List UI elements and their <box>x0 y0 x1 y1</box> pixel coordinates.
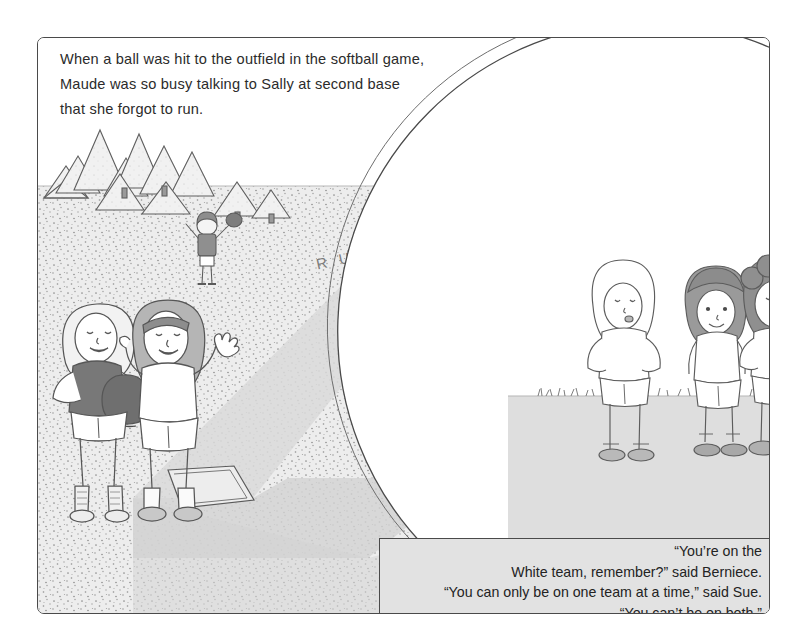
illustration-frame: R U N ! <box>37 37 770 614</box>
illustration-page: R U N ! <box>0 0 795 644</box>
scene-artwork: R U N ! <box>38 38 770 614</box>
dialogue-line-3: “You can only be on one team at a time,”… <box>444 582 762 603</box>
dialogue-line-1: “You’re on the <box>444 541 762 562</box>
dialogue-line-2: White team, remember?” said Berniece. <box>444 562 762 583</box>
caption-line-2: Maude was so busy talking to Sally at se… <box>60 72 560 97</box>
caption-line-3: that she forgot to run. <box>60 97 560 122</box>
dialogue-lines: “You’re on the White team, remember?” sa… <box>444 541 762 614</box>
caption-line-1: When a ball was hit to the outfield in t… <box>60 47 560 72</box>
dialogue-box: “You’re on the White team, remember?” sa… <box>379 538 770 614</box>
dialogue-line-4: “You can’t be on both.” <box>444 603 762 615</box>
caption-top: When a ball was hit to the outfield in t… <box>60 47 560 122</box>
